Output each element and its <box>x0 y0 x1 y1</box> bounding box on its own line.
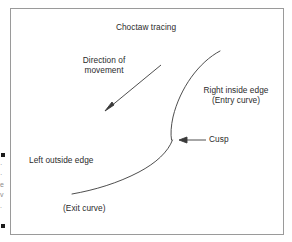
choctaw-tracing-figure: Choctaw tracing Direction of movement Ri… <box>0 0 292 242</box>
margin-bleed-fragment-5: . <box>0 201 8 211</box>
label-right-inside-edge: Right inside edge (Entry curve) <box>186 85 286 106</box>
label-left-outside-edge: Left outside edge <box>29 155 94 165</box>
label-direction-of-movement: Direction of movement <box>52 55 156 76</box>
margin-bleed-fragment-4: v <box>0 190 8 200</box>
figure-title: Choctaw tracing <box>0 22 292 32</box>
margin-bleed-fragment-1: · <box>0 160 8 170</box>
label-cusp: Cusp <box>209 134 229 144</box>
margin-bleed-square-bottom <box>1 224 5 228</box>
margin-bleed-fragment-2: · <box>0 170 8 180</box>
figure-border <box>10 8 284 235</box>
margin-bleed-square-top <box>1 153 5 157</box>
margin-bleed-fragment-3: e <box>0 180 8 190</box>
label-exit-curve: (Exit curve) <box>63 203 106 213</box>
